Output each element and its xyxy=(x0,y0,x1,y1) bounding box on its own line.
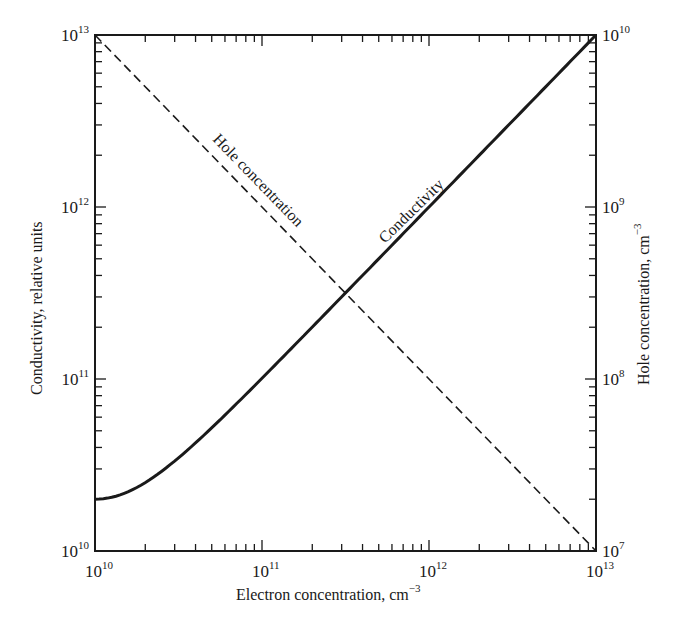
y-right-tick-label: 107 xyxy=(602,539,625,561)
tick-exponent: 9 xyxy=(619,195,625,207)
chart-svg: 1010101110121013101010111012101310710810… xyxy=(0,0,679,629)
tick-base: 10 xyxy=(61,198,78,217)
tick-exponent: 10 xyxy=(619,23,631,35)
tick-base: 10 xyxy=(602,542,619,561)
x-tick-label: 1011 xyxy=(252,559,280,581)
y-left-tick-label: 1011 xyxy=(61,367,89,389)
y-left-axis-title: Conductivity, relative units xyxy=(28,221,46,395)
tick-base: 10 xyxy=(252,562,269,581)
tick-base: 10 xyxy=(419,562,436,581)
x-axis-title-exp: −3 xyxy=(409,582,421,594)
tick-base: 10 xyxy=(61,26,78,45)
x-tick-label: 1012 xyxy=(419,559,447,581)
y-right-tick-label: 108 xyxy=(602,367,625,389)
y-right-tick-label: 1010 xyxy=(602,23,631,45)
conductivity-label: Conductivity xyxy=(375,175,447,246)
y-right-tick-label: 109 xyxy=(602,195,625,217)
tick-exponent: 10 xyxy=(102,559,114,571)
tick-base: 10 xyxy=(586,562,603,581)
x-axis-title: Electron concentration, cm−3 xyxy=(236,582,421,603)
tick-exponent: 8 xyxy=(619,367,625,379)
x-axis-title-main: Electron concentration, cm xyxy=(236,586,409,603)
hole-concentration-label: Hole concentration xyxy=(210,130,307,230)
tick-exponent: 13 xyxy=(78,23,90,35)
tick-base: 10 xyxy=(61,542,78,561)
conductivity-line xyxy=(95,35,596,499)
tick-exponent: 11 xyxy=(78,367,89,379)
x-tick-label: 1013 xyxy=(586,559,615,581)
x-tick-label: 1010 xyxy=(85,559,114,581)
y-left-tick-label: 1010 xyxy=(61,539,90,561)
tick-exponent: 12 xyxy=(78,195,89,207)
y-right-axis-title: Hole concentration, cm−3 xyxy=(631,223,652,385)
y-right-axis-title-exp: −3 xyxy=(631,223,643,235)
tick-exponent: 7 xyxy=(619,539,625,551)
y-left-tick-label: 1013 xyxy=(61,23,90,45)
tick-base: 10 xyxy=(61,370,78,389)
series-layer xyxy=(95,35,596,551)
tick-base: 10 xyxy=(602,198,619,217)
tick-labels: 1010101110121013101010111012101310710810… xyxy=(61,23,631,581)
y-right-axis-title-main: Hole concentration, cm xyxy=(635,235,652,385)
tick-base: 10 xyxy=(85,562,102,581)
tick-exponent: 10 xyxy=(78,539,90,551)
tick-base: 10 xyxy=(602,26,619,45)
tick-exponent: 11 xyxy=(269,559,280,571)
y-left-tick-label: 1012 xyxy=(61,195,89,217)
tick-exponent: 12 xyxy=(436,559,447,571)
tick-base: 10 xyxy=(602,370,619,389)
